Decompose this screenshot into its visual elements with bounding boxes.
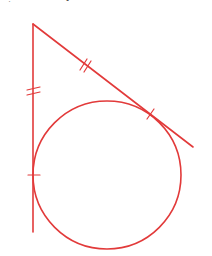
tangent-circle bbox=[33, 101, 181, 249]
geometry-diagram bbox=[0, 0, 212, 256]
slanted-line bbox=[33, 24, 193, 147]
